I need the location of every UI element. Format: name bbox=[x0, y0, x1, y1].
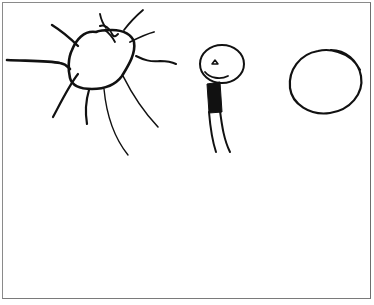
sun-icon bbox=[7, 10, 176, 155]
circle-icon bbox=[290, 50, 362, 114]
drawing-canvas bbox=[0, 0, 374, 305]
person-body bbox=[207, 82, 230, 152]
person-icon bbox=[200, 45, 244, 83]
